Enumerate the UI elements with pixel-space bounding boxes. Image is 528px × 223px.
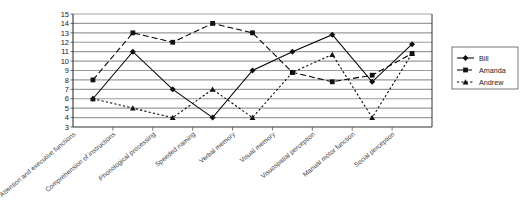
x-axis-label-text: Verbal memory [198,130,238,165]
y-axis-tick-label: 11 [61,47,69,56]
legend-label: Andrew [479,78,504,87]
y-axis-tick-label: 12 [61,38,69,47]
data-point [250,30,255,35]
data-point [130,30,135,35]
y-axis-tick-label: 4 [65,113,69,122]
y-axis-tick-label: 9 [65,66,69,75]
x-axis-label-text: Social perception [352,130,396,169]
legend-label: Bill [479,54,489,63]
y-axis-tick-label: 6 [65,94,69,103]
chart-canvas: 3456789101112131415Attention and executi… [0,0,528,223]
x-axis-label: Verbal memory [198,130,238,165]
data-point [370,73,375,78]
y-axis-tick-label: 7 [65,85,69,94]
x-axis-label: Attention and executive functions [0,130,77,198]
x-axis-label-text: Visual memory [238,130,277,165]
x-axis-label: Visual memory [238,130,277,165]
y-axis-tick-label: 15 [61,10,69,19]
line-chart: 3456789101112131415Attention and executi… [0,0,528,223]
data-point [330,79,335,84]
y-axis-tick-label: 5 [65,104,69,113]
y-axis-tick-label: 14 [61,19,69,28]
x-axis-label-text: Attention and executive functions [0,130,77,198]
y-axis-tick-label: 10 [61,57,69,66]
data-point [91,78,96,83]
x-axis-label: Social perception [352,130,396,169]
legend-marker [463,68,468,73]
legend-label: Amanda [479,66,506,75]
x-axis-label: Comprehension of instructions [44,130,118,194]
data-point [170,40,175,45]
y-axis-tick-label: 3 [65,123,69,132]
data-point [210,21,215,26]
x-axis-label-text: Comprehension of instructions [44,130,118,194]
y-axis-tick-label: 8 [65,76,69,85]
x-axis-label-text: Speeded naming [154,130,198,168]
y-axis-tick-label: 13 [61,29,69,38]
x-axis-label: Speeded naming [154,130,198,168]
